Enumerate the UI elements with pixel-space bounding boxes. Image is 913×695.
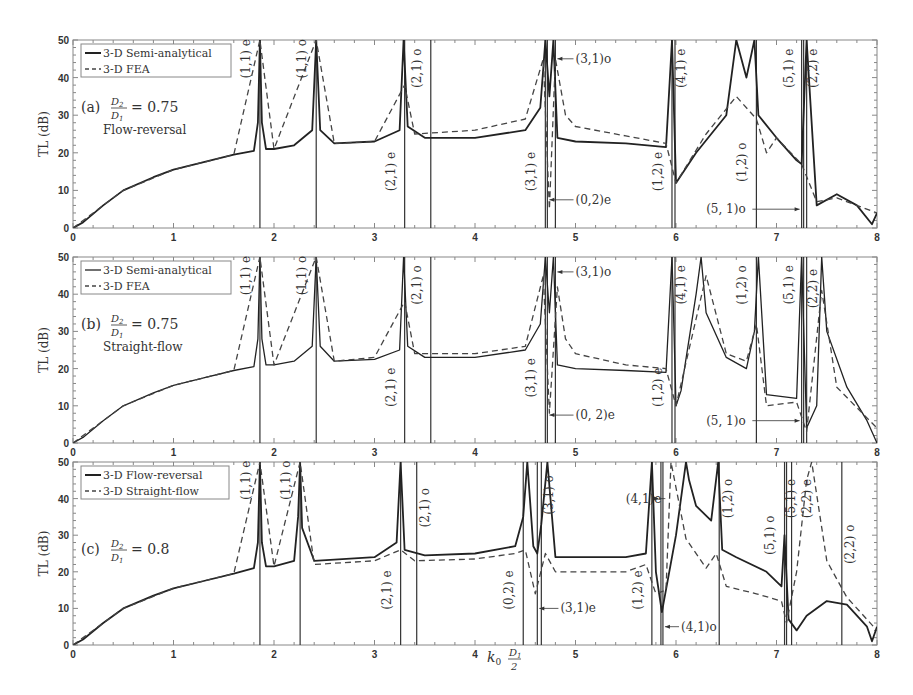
mode-annotation: (2,1) e [384, 152, 398, 191]
y-axis-label: TL (dB) [37, 531, 51, 577]
mode-annotation: (5,1) e [782, 265, 796, 304]
x-tick-label: 3 [372, 649, 378, 660]
x-tick-label: 0 [70, 447, 76, 458]
x-tick-label: 8 [874, 649, 880, 660]
mode-annotation: (1,2) e [631, 570, 645, 609]
y-tick-label: 30 [58, 110, 70, 121]
x-tick-label: 5 [573, 232, 579, 243]
ratio-denominator-sub: 1 [119, 115, 123, 123]
chart-panel-c: 01234567801020304050TL (dB)3-D Flow-reve… [37, 457, 880, 660]
mode-annotation: (3,1) o [542, 475, 556, 515]
x-axis-label-num: D1 [508, 647, 522, 660]
x-tick-label: 3 [372, 232, 378, 243]
y-tick-label: 20 [58, 567, 70, 578]
y-tick-label: 40 [58, 289, 70, 300]
legend-label: 3-D Semi-analytical [103, 264, 212, 277]
mode-annotation: (0,2) e [502, 570, 516, 609]
y-axis-label: TL (dB) [37, 111, 51, 157]
y-tick-label: 50 [58, 252, 70, 263]
y-tick-label: 30 [58, 530, 70, 541]
x-axis-label-den: 2 [510, 661, 517, 672]
x-axis-label: k0D12 [487, 647, 522, 672]
mode-annotation: (5, 1)o [706, 202, 746, 216]
mode-annotation: (4,1) e [674, 265, 688, 304]
x-tick-label: 1 [171, 649, 177, 660]
x-tick-label: 4 [472, 232, 478, 243]
mode-annotation: (0, 2)e [576, 408, 615, 422]
mode-annotation: (1,2) o [735, 142, 749, 182]
panel-label: (b) [81, 316, 101, 332]
mode-annotation: (5,1) e [782, 49, 796, 88]
y-tick-label: 30 [58, 326, 70, 337]
y-tick-label: 0 [63, 640, 69, 651]
panel-label: (a) [81, 99, 100, 115]
y-axis-label: TL (dB) [37, 327, 51, 373]
mode-annotation: (2,1) o [418, 488, 432, 528]
mode-annotation: (1,1) o [279, 461, 293, 501]
figure: 01234567801020304050TL (dB)3-D Semi-anal… [0, 0, 913, 695]
mode-annotation: (2,1) o [410, 265, 424, 305]
mode-annotation: (2,1) o [410, 48, 424, 88]
x-tick-label: 2 [271, 649, 277, 660]
x-tick-label: 2 [271, 232, 277, 243]
x-tick-label: 7 [774, 232, 780, 243]
legend-label: 3-D Semi-analytical [103, 47, 212, 60]
mode-annotation: (1,2) e [651, 152, 665, 191]
legend: 3-D Flow-reversal3-D Straight-flow [81, 466, 229, 499]
x-tick-label: 1 [171, 232, 177, 243]
x-tick-label: 7 [774, 447, 780, 458]
ratio-denominator-sub: 1 [119, 557, 123, 565]
x-tick-label: 1 [171, 447, 177, 458]
mode-annotation: (3,1)o [576, 265, 612, 279]
y-tick-label: 0 [63, 438, 69, 449]
ratio-denominator-sub: 1 [119, 332, 123, 340]
mode-annotation: (1,2) o [735, 265, 749, 305]
y-tick-label: 40 [58, 73, 70, 84]
ratio-value: = 0.75 [131, 99, 178, 115]
x-tick-label: 6 [673, 649, 679, 660]
configuration-label: Flow-reversal [103, 123, 186, 137]
legend: 3-D Semi-analytical3-D FEA [81, 261, 231, 294]
legend-label: 3-D Flow-reversal [103, 469, 203, 482]
mode-annotation: (1,1) o [295, 256, 309, 296]
y-tick-label: 10 [58, 401, 70, 412]
panel-label: (c) [81, 541, 100, 557]
configuration-label: Straight-flow [103, 340, 183, 354]
legend-label: 3-D FEA [103, 63, 151, 76]
mode-annotation: (5,1) e [784, 479, 798, 518]
chart-panel-a: 01234567801020304050TL (dB)3-D Semi-anal… [37, 35, 880, 243]
y-tick-label: 0 [63, 223, 69, 234]
mode-annotation: (1,2) o [721, 479, 735, 518]
y-tick-label: 50 [58, 457, 70, 468]
legend-label: 3-D Straight-flow [103, 485, 200, 498]
mode-annotation: (3,1) e [524, 152, 538, 191]
ratio-value: = 0.8 [131, 541, 169, 557]
mode-annotation: (4,1)o [681, 620, 717, 634]
mode-annotation: (0,2)e [576, 193, 612, 207]
x-tick-label: 8 [874, 232, 880, 243]
mode-annotation: (2,2) o [843, 525, 857, 565]
x-tick-label: 4 [472, 447, 478, 458]
mode-annotation: (2,2) e [806, 49, 820, 88]
x-tick-label: 4 [472, 649, 478, 660]
x-tick-label: 5 [573, 649, 579, 660]
x-tick-label: 2 [271, 447, 277, 458]
mode-annotation: (2,2) e [806, 269, 820, 308]
y-tick-label: 50 [58, 35, 70, 46]
mode-annotation: (1,1) o [295, 39, 309, 79]
x-tick-label: 3 [372, 447, 378, 458]
mode-annotation: (1,1) e [239, 461, 253, 500]
mode-annotation: (1,1) e [239, 256, 253, 295]
mode-annotation: (3,1) e [524, 358, 538, 397]
x-axis-label-k: k0 [487, 649, 501, 667]
x-tick-label: 6 [673, 447, 679, 458]
mode-annotation: (3,1)e [560, 601, 596, 615]
mode-annotation: (3,1)o [576, 52, 612, 66]
x-tick-label: 7 [774, 649, 780, 660]
y-tick-label: 20 [58, 364, 70, 375]
mode-annotation: (4,1) e [674, 49, 688, 88]
y-tick-label: 20 [58, 148, 70, 159]
chart-panel-b: 01234567801020304050TL (dB)3-D Semi-anal… [37, 252, 880, 458]
x-tick-label: 8 [874, 447, 880, 458]
ratio-value: = 0.75 [131, 316, 178, 332]
